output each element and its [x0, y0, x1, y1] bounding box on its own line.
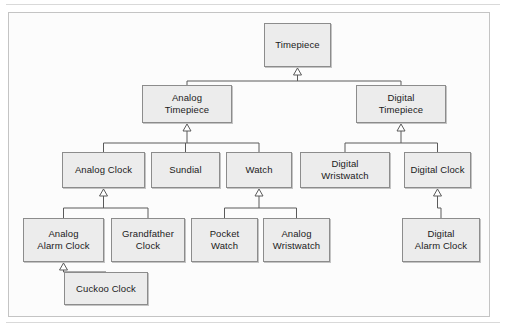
- class-node-label: Digital Clock: [410, 164, 464, 176]
- class-node-cuckoo-clock[interactable]: Cuckoo Clock: [64, 272, 148, 305]
- class-node-label: Sundial: [169, 164, 201, 176]
- class-node-digital-wristwatch[interactable]: Digital Wristwatch: [300, 152, 390, 188]
- class-node-analog-wristwatch[interactable]: Analog Wristwatch: [263, 218, 330, 262]
- class-node-digital-timepiece[interactable]: Digital Timepiece: [356, 85, 446, 123]
- class-node-label: Digital Timepiece: [379, 92, 423, 116]
- top-caption: [0, 0, 506, 2]
- class-node-analog-timepiece[interactable]: Analog Timepiece: [142, 85, 232, 123]
- class-node-label: Cuckoo Clock: [76, 283, 136, 295]
- class-node-label: Pocket Watch: [210, 228, 240, 252]
- class-node-timepiece[interactable]: Timepiece: [264, 23, 331, 67]
- class-node-label: Watch: [245, 164, 272, 176]
- page-rule-top: [6, 4, 500, 5]
- class-node-analog-alarm-clock[interactable]: Analog Alarm Clock: [23, 218, 104, 262]
- page-rule-bottom: [6, 322, 500, 323]
- class-node-label: Timepiece: [275, 39, 319, 51]
- diagram-page: TimepieceAnalog TimepieceDigital Timepie…: [0, 0, 506, 333]
- class-node-label: Analog Alarm Clock: [37, 228, 89, 252]
- class-node-watch[interactable]: Watch: [226, 152, 292, 188]
- class-node-sundial[interactable]: Sundial: [151, 152, 220, 188]
- class-node-label: Digital Wristwatch: [321, 158, 368, 182]
- class-node-label: Analog Wristwatch: [273, 228, 320, 252]
- class-node-label: Grandfather Clock: [122, 228, 174, 252]
- class-node-label: Analog Clock: [75, 164, 132, 176]
- class-node-grandfather-clock[interactable]: Grandfather Clock: [111, 218, 185, 262]
- class-node-pocket-watch[interactable]: Pocket Watch: [191, 218, 258, 262]
- class-node-digital-clock[interactable]: Digital Clock: [404, 152, 471, 188]
- class-node-analog-clock[interactable]: Analog Clock: [62, 152, 145, 188]
- class-node-digital-alarm-clock[interactable]: Digital Alarm Clock: [402, 218, 480, 262]
- class-node-label: Digital Alarm Clock: [415, 228, 467, 252]
- class-node-label: Analog Timepiece: [165, 92, 209, 116]
